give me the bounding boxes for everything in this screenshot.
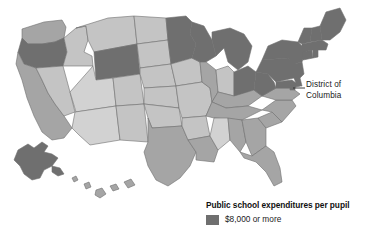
state-michigan xyxy=(212,28,252,70)
state-missouri xyxy=(176,82,212,118)
state-hawaii-island-3 xyxy=(95,188,106,198)
legend-title: Public school expenditures per pupil xyxy=(206,200,383,211)
state-arkansas xyxy=(182,116,210,140)
state-south-dakota xyxy=(137,40,171,68)
state-alaska xyxy=(14,142,58,180)
state-new-mexico xyxy=(116,104,148,142)
state-rhode-island xyxy=(313,49,318,58)
state-florida xyxy=(240,146,282,186)
state-arizona xyxy=(72,106,120,145)
state-hawaii-island-4 xyxy=(110,184,119,191)
us-map-svg xyxy=(0,0,383,231)
state-district-of-columbia xyxy=(290,85,295,90)
state-nebraska xyxy=(140,64,176,88)
state-colorado xyxy=(113,74,144,106)
state-indiana xyxy=(216,66,234,96)
district-of-columbia-callout: District of Columbia xyxy=(306,80,382,101)
legend-entry: $8,000 or more xyxy=(206,214,383,225)
state-maine xyxy=(320,8,346,40)
state-alaska-panhandle xyxy=(52,166,64,176)
map-legend: Public school expenditures per pupil $8,… xyxy=(206,200,383,225)
state-new-jersey xyxy=(294,62,304,78)
state-hawaii-island-1 xyxy=(72,176,78,182)
state-hawaii-island-5 xyxy=(124,179,135,188)
state-north-dakota xyxy=(134,16,168,44)
callout-line-2: Columbia xyxy=(306,91,382,102)
callout-line-1: District of xyxy=(306,80,382,91)
state-hawaii-island-2 xyxy=(84,182,91,189)
legend-entry-label: $8,000 or more xyxy=(225,214,281,225)
legend-swatch-icon xyxy=(206,215,219,225)
us-expenditures-choropleth-figure: District of Columbia Public school expen… xyxy=(0,0,383,231)
